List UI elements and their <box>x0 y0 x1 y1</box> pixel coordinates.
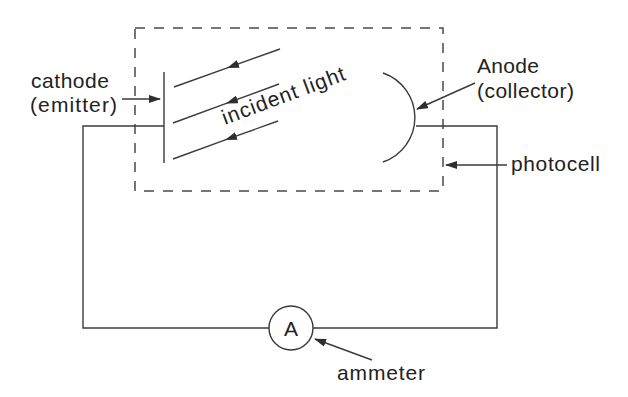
anode-callout: Anode (collector) <box>417 54 574 109</box>
cathode-label: cathode <box>31 69 109 92</box>
photocell-label: photocell <box>511 152 600 175</box>
anode-pointer-arrow-icon <box>417 83 475 109</box>
emitter-label: (emitter) <box>30 93 117 116</box>
incident-light-label: incident light <box>218 62 348 129</box>
ammeter-pointer-arrow-icon <box>315 339 372 360</box>
photocell-enclosure <box>135 28 443 191</box>
circuit-wire-left <box>83 126 269 328</box>
cathode-callout: cathode (emitter) <box>30 69 160 116</box>
photocell-diagram: incident light A cathode (emitter) Anode… <box>0 0 628 397</box>
photocell-callout: photocell <box>446 152 600 175</box>
anode-label: Anode <box>477 54 539 77</box>
ammeter-callout: ammeter <box>315 339 425 384</box>
light-ray-arrow-icon <box>174 49 280 87</box>
diagram-svg: incident light A cathode (emitter) Anode… <box>0 0 628 397</box>
collector-label: (collector) <box>477 79 574 102</box>
ammeter-label: ammeter <box>337 361 425 384</box>
ammeter: A <box>269 306 313 350</box>
ammeter-symbol: A <box>284 317 298 340</box>
circuit-wire-right <box>313 126 497 328</box>
anode-electrode <box>383 73 415 162</box>
